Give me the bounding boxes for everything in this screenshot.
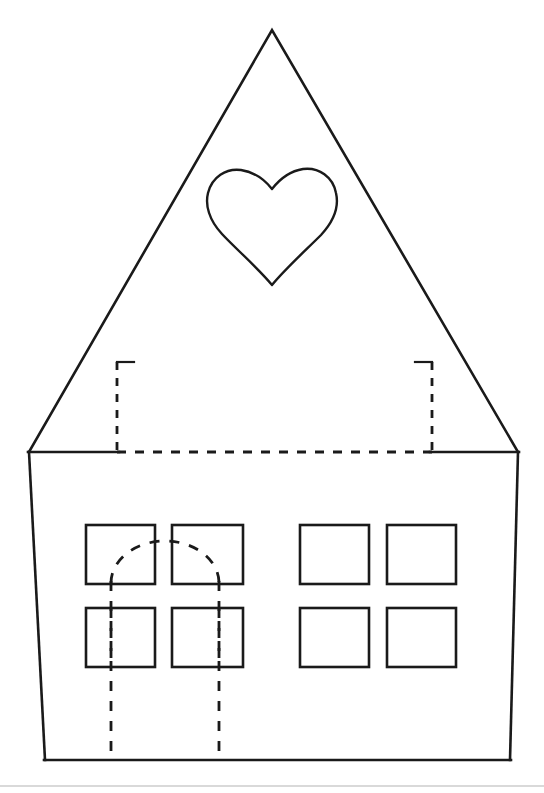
house-body-group[interactable] bbox=[29, 452, 518, 760]
house-body-hit-area[interactable] bbox=[29, 452, 518, 760]
house-template-drawing bbox=[0, 0, 544, 793]
template-page: House craft cut-and-fold template Line-a… bbox=[0, 0, 544, 793]
